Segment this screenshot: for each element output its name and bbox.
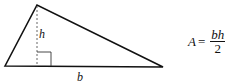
triangle xyxy=(5,5,163,67)
base-label: b xyxy=(77,70,83,83)
formula-fraction: bh 2 xyxy=(210,28,225,55)
height-label: h xyxy=(39,27,45,41)
formula-equals: = xyxy=(198,34,205,50)
formula-lhs: A xyxy=(188,34,196,50)
area-formula: A = bh 2 xyxy=(188,28,225,55)
formula-numerator: bh xyxy=(210,28,225,42)
right-angle-marker xyxy=(37,52,51,66)
formula-denominator: 2 xyxy=(215,42,222,55)
